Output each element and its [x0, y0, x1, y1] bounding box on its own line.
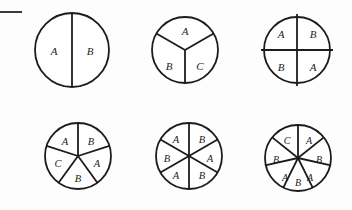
spinner-4-label-5: A — [61, 136, 69, 147]
spinner-4: B A B C A — [43, 120, 113, 194]
spinner-1-graphic: A B — [33, 10, 111, 90]
spinner-3: B A B A — [261, 14, 333, 88]
spinner-3-label-4: A — [277, 28, 285, 40]
spinner-4-graphic: B A B C A — [43, 120, 113, 194]
spinner-5-label-4: A — [172, 170, 180, 181]
spinner-3-label-3: B — [278, 61, 285, 73]
spinner-6-label-1: A — [305, 135, 313, 146]
spinner-6-label-3: A — [306, 172, 314, 183]
spinner-2-label-3: B — [166, 60, 173, 72]
spinner-5-graphic: B A B A B A — [154, 120, 224, 194]
spinner-1-label-1: A — [50, 45, 58, 57]
spinner-2-label-1: A — [181, 25, 189, 37]
spinner-6-label-4: B — [295, 177, 301, 188]
spinner-1: A B — [33, 10, 111, 90]
spinner-4-label-3: B — [75, 173, 82, 184]
spinner-2-graphic: A C B — [150, 14, 220, 88]
spinner-5-label-2: A — [206, 153, 214, 164]
spinner-5: B A B A B A — [154, 120, 224, 194]
spinner-6-label-7: C — [284, 135, 291, 146]
spinner-figure: A B A C B B A B A — [0, 0, 352, 210]
spinner-5-label-1: B — [199, 134, 206, 145]
spinner-1-label-2: B — [87, 45, 94, 57]
spinner-5-label-5: B — [164, 153, 171, 164]
spinner-4-label-2: A — [93, 158, 101, 169]
spinner-3-label-1: B — [310, 28, 317, 40]
spinner-6-graphic: A B A B A B C — [263, 122, 333, 196]
spinner-6-label-5: A — [281, 172, 289, 183]
spinner-5-label-3: B — [199, 170, 206, 181]
corner-rule-mark — [0, 11, 22, 13]
spinner-5-label-6: A — [172, 134, 180, 145]
spinner-6: A B A B A B C — [263, 122, 333, 196]
spinner-2-label-2: C — [196, 60, 204, 72]
spinner-2: A C B — [150, 14, 220, 88]
spinner-6-label-2: B — [316, 154, 322, 165]
spinner-6-label-6: B — [273, 154, 279, 165]
spinner-3-label-2: A — [309, 61, 317, 73]
spinner-4-label-1: B — [88, 136, 95, 147]
spinner-4-label-4: C — [54, 158, 62, 169]
spinner-3-graphic: B A B A — [261, 14, 333, 88]
